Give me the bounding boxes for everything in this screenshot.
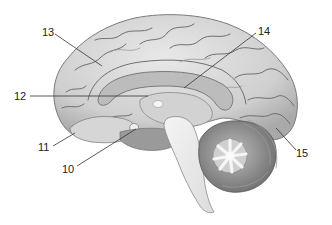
label-11: 11	[38, 141, 49, 153]
label-13: 13	[42, 26, 54, 38]
label-15: 15	[296, 147, 308, 159]
leader-line-11	[53, 133, 75, 146]
label-14: 14	[258, 25, 270, 37]
cerebellum	[199, 120, 277, 192]
label-12: 12	[14, 90, 26, 102]
brain-sagittal-diagram: 13 14 12 11 10 15	[0, 0, 332, 225]
label-10: 10	[62, 163, 74, 175]
arbor-vitae	[213, 139, 247, 173]
interthalamic-adhesion	[153, 101, 163, 108]
